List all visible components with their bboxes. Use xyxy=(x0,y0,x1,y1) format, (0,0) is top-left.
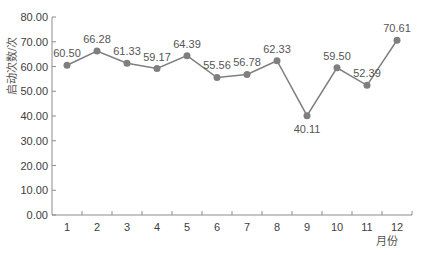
y-tick-label: 70.00 xyxy=(20,36,48,48)
y-axis-title: 启动次数/次 xyxy=(5,37,18,95)
x-tick-label: 8 xyxy=(274,221,280,233)
data-point-marker xyxy=(394,37,401,44)
y-tick-label: 80.00 xyxy=(20,11,48,23)
x-tick-label: 9 xyxy=(304,221,310,233)
x-tick-label: 11 xyxy=(361,221,372,233)
data-label: 70.61 xyxy=(383,22,411,34)
y-tick-label: 0.00 xyxy=(27,209,48,221)
data-point-marker xyxy=(304,112,311,119)
x-axis: 123456789101112 xyxy=(52,211,412,233)
x-tick-label: 6 xyxy=(214,221,220,233)
y-tick-label: 20.00 xyxy=(20,160,48,172)
y-tick-label: 60.00 xyxy=(20,61,48,73)
data-point-marker xyxy=(274,57,281,64)
data-series: 60.5066.2861.3359.1764.3955.5656.7862.33… xyxy=(53,22,411,134)
data-label: 59.17 xyxy=(143,51,171,63)
y-tick-label: 10.00 xyxy=(20,184,48,196)
y-tick-label: 50.00 xyxy=(20,85,48,97)
data-label: 55.56 xyxy=(203,59,231,71)
data-label: 40.11 xyxy=(294,123,321,135)
data-label: 56.78 xyxy=(233,56,261,68)
x-tick-label: 1 xyxy=(64,221,70,233)
x-tick-label: 5 xyxy=(184,221,190,233)
data-label: 61.33 xyxy=(113,45,141,57)
x-axis-title: 月份 xyxy=(376,235,398,247)
data-label: 66.28 xyxy=(83,33,111,45)
data-point-marker xyxy=(124,60,131,67)
y-axis: 0.0010.0020.0030.0040.0050.0060.0070.008… xyxy=(20,11,56,221)
data-label: 52.39 xyxy=(353,67,381,79)
data-point-marker xyxy=(244,71,251,78)
y-tick-label: 30.00 xyxy=(20,135,48,147)
data-point-marker xyxy=(214,74,221,81)
x-tick-label: 2 xyxy=(94,221,100,233)
data-label: 60.50 xyxy=(53,47,81,59)
x-tick-label: 12 xyxy=(391,221,403,233)
y-tick-label: 40.00 xyxy=(20,110,48,122)
data-point-marker xyxy=(94,47,101,54)
x-tick-label: 4 xyxy=(154,221,160,233)
line-chart: 0.0010.0020.0030.0040.0050.0060.0070.008… xyxy=(0,0,422,255)
data-label: 62.33 xyxy=(263,43,291,55)
x-tick-label: 3 xyxy=(124,221,130,233)
data-label: 59.50 xyxy=(323,50,351,62)
x-tick-label: 10 xyxy=(331,221,343,233)
data-point-marker xyxy=(364,82,371,89)
data-label: 64.39 xyxy=(173,38,201,50)
data-point-marker xyxy=(184,52,191,59)
data-point-marker xyxy=(334,64,341,71)
data-point-marker xyxy=(64,62,71,69)
data-point-marker xyxy=(154,65,161,72)
x-tick-label: 7 xyxy=(244,221,250,233)
